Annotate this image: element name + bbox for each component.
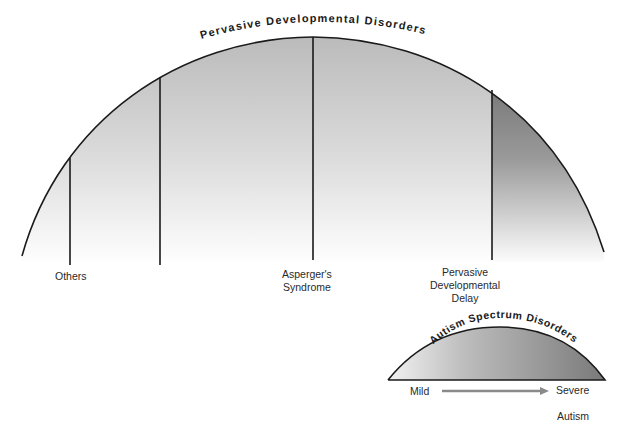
label-aspergers: Asperger's Syndrome xyxy=(282,268,332,294)
label-pdd-line1: Pervasive xyxy=(430,266,500,279)
label-aspergers-line2: Syndrome xyxy=(282,281,332,294)
label-others: Others xyxy=(55,270,87,283)
severity-arrow-head-icon xyxy=(540,387,549,395)
label-mild: Mild xyxy=(410,385,429,398)
label-pdd-line3: Delay xyxy=(430,292,500,305)
spectrum-arc-fill xyxy=(388,327,605,380)
label-pdd-line2: Developmental xyxy=(430,279,500,292)
label-severe: Severe xyxy=(556,384,589,397)
diagram-canvas: Pervasive Developmental Disorders Autism… xyxy=(0,0,628,438)
label-autism: Autism xyxy=(557,410,589,423)
label-aspergers-line1: Asperger's xyxy=(282,268,332,281)
main-arc-fill xyxy=(0,30,628,265)
label-pdd: Pervasive Developmental Delay xyxy=(430,266,500,305)
